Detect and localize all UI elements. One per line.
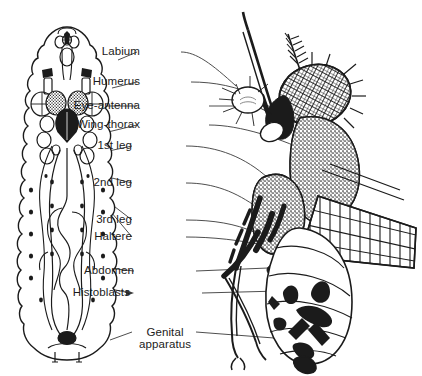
adult-fly-drawing — [219, 12, 420, 373]
label-genital-apparatus: Genital apparatus — [134, 326, 196, 350]
fly-arista — [285, 33, 308, 70]
label-1st-leg: 1st leg — [60, 139, 132, 151]
label-2nd-leg: 2nd leg — [60, 176, 132, 188]
leader-1st-leg — [186, 146, 268, 178]
label-humerus: Humerus — [50, 75, 140, 87]
label-labium: Labium — [60, 45, 140, 57]
label-histoblasts: Histoblasts — [44, 286, 130, 298]
label-wing-thorax: Wing-thorax — [40, 118, 140, 130]
leader-genital-left — [110, 332, 132, 340]
label-3rd-leg: 3rd leg — [60, 213, 132, 225]
larva-genital-disc — [58, 332, 76, 345]
label-genital-line2: apparatus — [134, 338, 196, 350]
leader-2nd-leg — [186, 183, 258, 208]
fly-midleg — [224, 232, 266, 360]
figure-drosophila-imaginal-discs: Labium Humerus Eye-antenna Wing-thorax 1… — [0, 0, 422, 376]
label-eye-antenna: Eye-antenna — [40, 99, 140, 111]
label-genital-line1: Genital — [134, 326, 196, 338]
label-haltere: Haltere — [60, 230, 132, 242]
label-abdomen: Abdomen — [50, 264, 134, 276]
leader-labium — [181, 52, 236, 86]
